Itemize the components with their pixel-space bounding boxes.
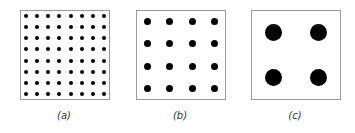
dot [80,92,84,96]
dot [144,63,151,70]
dot [69,59,73,63]
dot [69,36,73,40]
dot [35,81,39,85]
dot [91,92,95,96]
dot [69,14,73,18]
dot [46,81,50,85]
dot [102,70,106,74]
dot [211,18,218,25]
dot [91,81,95,85]
dot [211,63,218,70]
dot [91,36,95,40]
dot [91,25,95,29]
dot [57,81,61,85]
dot [80,36,84,40]
dot [166,85,173,92]
dot [69,25,73,29]
dot [57,14,61,18]
dot [57,36,61,40]
dot [144,40,151,47]
dot [102,36,106,40]
dot [80,47,84,51]
panel-b [136,10,226,100]
dot [91,70,95,74]
dot [310,69,327,86]
dot [102,14,106,18]
dot [57,47,61,51]
dot [35,25,39,29]
dot [35,47,39,51]
panel-a [20,10,110,100]
dot [91,47,95,51]
dot [166,63,173,70]
dot [80,81,84,85]
dot [80,25,84,29]
dot [166,18,173,25]
panel-c-label: (c) [275,110,315,121]
dot [189,85,196,92]
dot [166,40,173,47]
dot [144,18,151,25]
dot [189,40,196,47]
dot [102,25,106,29]
dot [35,14,39,18]
dot [24,59,28,63]
dot [80,14,84,18]
dot [189,18,196,25]
dot [80,70,84,74]
dot [24,47,28,51]
dot [46,36,50,40]
dot [310,24,327,41]
dot [24,36,28,40]
dot [69,47,73,51]
dot [24,81,28,85]
dot [46,59,50,63]
dot [102,47,106,51]
dot [46,92,50,96]
dot [265,24,282,41]
dot [189,63,196,70]
dot [46,47,50,51]
dot [35,92,39,96]
dot [69,92,73,96]
panel-b-label: (b) [160,110,200,121]
dot [102,92,106,96]
dot [24,14,28,18]
panel-c [251,10,341,100]
dot [102,59,106,63]
dot [102,81,106,85]
dot [35,36,39,40]
dot [57,59,61,63]
dot [35,59,39,63]
dot [35,70,39,74]
dot [57,25,61,29]
panel-a-label: (a) [44,110,84,121]
dot [91,14,95,18]
dot [211,85,218,92]
dot [57,70,61,74]
dot [24,92,28,96]
dot [80,59,84,63]
dot [24,70,28,74]
dot [69,70,73,74]
dot [265,69,282,86]
dot [24,25,28,29]
dot [46,25,50,29]
dot [211,40,218,47]
dot [144,85,151,92]
dot [46,14,50,18]
dot [69,81,73,85]
dot [57,92,61,96]
dot [46,70,50,74]
dot [91,59,95,63]
